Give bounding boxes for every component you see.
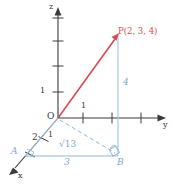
point-b-label: B [117,158,124,167]
x-axis-label: x [18,172,23,180]
y-axis-tick-label: 1 [81,102,86,110]
x-axis-tick-label-2: 2 [32,133,38,142]
origin-label: O [47,112,54,121]
point-p-label: P(2, 3, 4) [118,27,157,36]
base-measure-label: 3 [64,158,70,167]
vector-origin-to-p [58,39,115,118]
height-measure-label: 4 [123,78,129,87]
x-axis-tick-label-1: 1 [48,131,53,139]
z-axis-tick-label: 1 [40,87,45,95]
y-axis-label: y [163,121,168,129]
point-a-label: A [11,147,18,156]
figure-3d-coordinates: z y x 1 1 1 2 O P(2, 3, 4) A B 4 3 √13 [0,0,173,186]
diagonal-measure-label: √13 [59,140,76,149]
z-axis-label: z [49,3,53,11]
z-axis-arrowhead [55,7,62,16]
